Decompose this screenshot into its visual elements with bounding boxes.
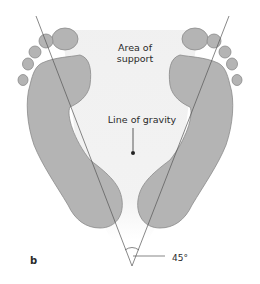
area-of-support-label: Area of support: [100, 42, 170, 64]
line-of-gravity-label: Line of gravity: [102, 114, 182, 125]
right-toe-2: [207, 34, 221, 48]
angle-label: 45°: [172, 253, 188, 264]
panel-label: b: [30, 255, 37, 266]
left-toe-4: [23, 58, 34, 70]
right-toe-4: [227, 58, 238, 70]
center-of-gravity-dot: [131, 151, 135, 155]
right-toe-3: [219, 46, 231, 58]
angle-arc: [125, 248, 139, 251]
left-toe-2: [39, 34, 53, 48]
left-toe-3: [29, 46, 41, 58]
left-big-toe: [52, 28, 78, 50]
right-toe-5: [232, 75, 242, 86]
left-toe-5: [18, 75, 28, 86]
right-big-toe: [182, 28, 208, 50]
